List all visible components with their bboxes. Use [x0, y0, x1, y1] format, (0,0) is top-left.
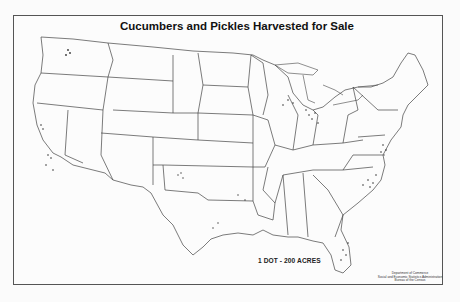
- dot-clusters: [40, 49, 387, 261]
- source-credit: Department of Commerce Social and Econom…: [365, 272, 455, 283]
- credit-line-3: Bureau of the Census: [365, 279, 455, 283]
- legend-label: 1 DOT - 200 ACRES: [258, 257, 321, 264]
- us-state-map: [13, 15, 443, 285]
